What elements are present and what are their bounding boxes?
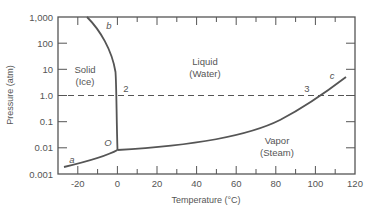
- x-tick-label: 40: [191, 178, 202, 189]
- x-tick-label: 80: [271, 178, 282, 189]
- y-tick-label: 0.001: [29, 169, 53, 180]
- liquid-region-label: Liquid: [192, 56, 217, 67]
- x-tick-label: 20: [152, 178, 163, 189]
- y-tick-label: 0.1: [40, 116, 53, 127]
- x-tick-labels: -20 0 20 40 60 80 100 120: [71, 178, 363, 189]
- x-tick-label: 0: [115, 178, 120, 189]
- y-tick-label: 10: [42, 64, 53, 75]
- y-tick-label: 1.0: [40, 90, 53, 101]
- point-2-label: 2: [123, 83, 128, 94]
- vapor-region-sublabel: (Steam): [260, 147, 294, 158]
- y-tick-labels: 1,000 100 10 1.0 0.1 0.01 0.001: [29, 12, 53, 180]
- curve-b-label: b: [106, 20, 111, 31]
- solid-region-label: Solid: [74, 64, 95, 75]
- y-tick-label: 0.01: [35, 142, 54, 153]
- x-tick-label: -20: [71, 178, 85, 189]
- x-axis-title: Temperature (°C): [171, 195, 240, 205]
- x-tick-label: 60: [231, 178, 242, 189]
- y-tick-label: 1,000: [29, 12, 53, 23]
- curve-c-label: c: [330, 70, 335, 81]
- curve-a-label: a: [69, 154, 74, 165]
- liquid-vapor-curve-c: [118, 77, 347, 150]
- x-tick-label: 100: [307, 178, 323, 189]
- phase-diagram-water: 1,000 100 10 1.0 0.1 0.01 0.001 -20 0 20…: [0, 0, 375, 214]
- point-3-label: 3: [304, 83, 309, 94]
- vapor-region-label: Vapor: [265, 135, 290, 146]
- solid-region-sublabel: (Ice): [76, 76, 95, 87]
- y-tick-label: 100: [37, 38, 53, 49]
- y-axis-title: Pressure (atm): [5, 65, 15, 125]
- triple-point-label: O: [104, 137, 112, 148]
- x-tick-label: 120: [347, 178, 363, 189]
- liquid-region-sublabel: (Water): [189, 68, 220, 79]
